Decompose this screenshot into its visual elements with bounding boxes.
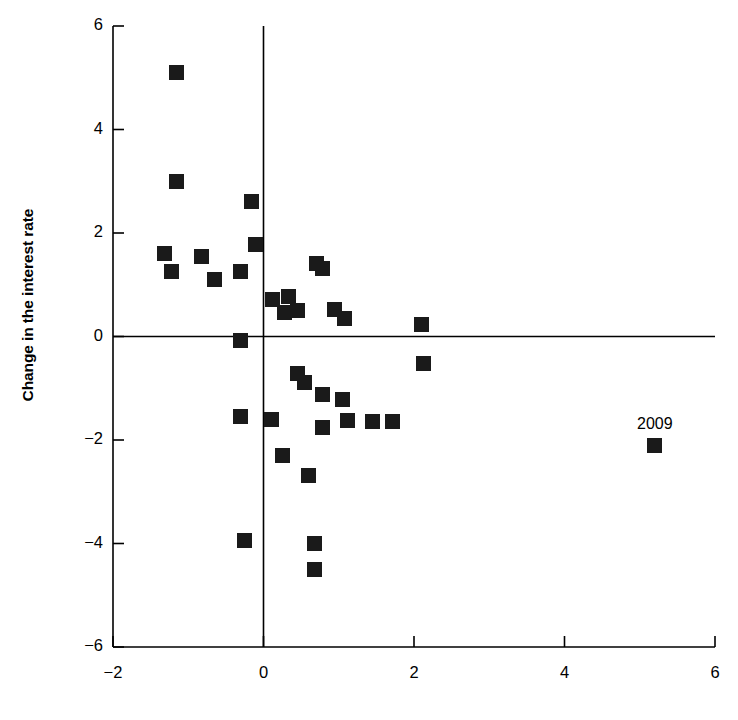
data-point bbox=[337, 311, 352, 326]
y-tick-label: −6 bbox=[59, 636, 103, 655]
data-point bbox=[335, 392, 350, 407]
data-point bbox=[315, 387, 330, 402]
data-point bbox=[233, 333, 248, 348]
x-tick-label: 4 bbox=[543, 663, 587, 682]
x-tick-label: −2 bbox=[91, 663, 135, 682]
data-point bbox=[315, 420, 330, 435]
x-tick-label: 2 bbox=[392, 663, 436, 682]
data-point bbox=[157, 246, 172, 261]
y-tick-label: −4 bbox=[59, 533, 103, 552]
data-point bbox=[301, 468, 316, 483]
data-point bbox=[290, 303, 305, 318]
data-point-label: 2009 bbox=[637, 415, 673, 433]
data-point bbox=[233, 264, 248, 279]
data-point bbox=[416, 356, 431, 371]
data-point bbox=[275, 448, 290, 463]
axes-layer bbox=[113, 26, 715, 647]
y-tick-label: 0 bbox=[59, 326, 103, 345]
data-point bbox=[248, 237, 263, 252]
y-tick-label: 6 bbox=[59, 15, 103, 34]
plot-area: 2009 bbox=[113, 26, 715, 647]
x-tick-label: 0 bbox=[242, 663, 286, 682]
y-tick-label: 4 bbox=[59, 119, 103, 138]
data-point bbox=[244, 194, 259, 209]
data-point bbox=[164, 264, 179, 279]
data-point bbox=[385, 414, 400, 429]
data-point bbox=[647, 438, 662, 453]
data-point bbox=[169, 174, 184, 189]
data-point bbox=[307, 562, 322, 577]
data-point bbox=[169, 65, 184, 80]
y-tick-label: −2 bbox=[59, 429, 103, 448]
data-point bbox=[264, 412, 279, 427]
data-point bbox=[365, 414, 380, 429]
data-point bbox=[237, 533, 252, 548]
data-point bbox=[207, 272, 222, 287]
data-point bbox=[297, 375, 312, 390]
data-point bbox=[414, 317, 429, 332]
y-tick-label: 2 bbox=[59, 222, 103, 241]
data-point bbox=[233, 409, 248, 424]
y-axis-label: Change in the interest rate bbox=[14, 95, 42, 515]
x-tick-label: 6 bbox=[693, 663, 737, 682]
scatter-chart-figure: Change in the interest rate 2009 −6−4−20… bbox=[0, 0, 738, 720]
data-point bbox=[315, 261, 330, 276]
data-point bbox=[340, 413, 355, 428]
data-point bbox=[281, 289, 296, 304]
data-point bbox=[307, 536, 322, 551]
data-point bbox=[194, 249, 209, 264]
